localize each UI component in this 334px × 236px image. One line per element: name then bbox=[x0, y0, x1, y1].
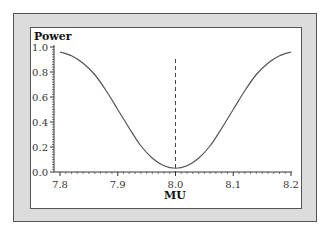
y-tick-label: 0.8 bbox=[32, 67, 48, 78]
y-tick-label: 0.2 bbox=[32, 142, 48, 153]
y-tick-label: 0.6 bbox=[32, 92, 48, 103]
x-tick-label: 8.0 bbox=[168, 179, 184, 190]
x-tick-label: 7.8 bbox=[52, 179, 68, 190]
y-tick-label: 0.0 bbox=[32, 167, 48, 178]
tick-labels: 0.00.20.40.60.81.07.87.98.08.18.2 bbox=[32, 42, 299, 191]
axes bbox=[54, 45, 292, 172]
x-tick-label: 8.1 bbox=[225, 179, 241, 190]
x-tick-label: 8.2 bbox=[283, 179, 299, 190]
y-tick-label: 0.4 bbox=[32, 117, 48, 128]
x-tick-label: 7.9 bbox=[110, 179, 126, 190]
y-tick-label: 1.0 bbox=[32, 42, 48, 53]
chart-plot: 0.00.20.40.60.81.07.87.98.08.18.2 bbox=[0, 0, 334, 236]
